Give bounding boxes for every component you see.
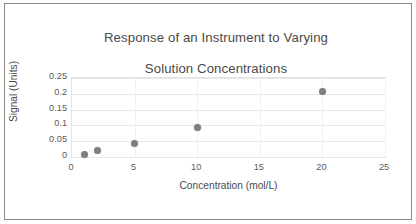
plot-area xyxy=(71,77,386,158)
x-axis-tick-label: 15 xyxy=(244,163,274,172)
y-axis-tick-label: 0.1 xyxy=(33,120,67,129)
y-axis-tick-label: 0.05 xyxy=(33,136,67,145)
gridline-vertical xyxy=(260,78,261,157)
y-axis-tick-label: 0 xyxy=(33,151,67,160)
gridline-vertical xyxy=(385,78,386,157)
data-point xyxy=(194,124,201,131)
gridline-horizontal xyxy=(72,157,385,158)
data-point xyxy=(131,140,138,147)
data-point xyxy=(81,151,88,158)
chart-title: Response of an Instrument to Varying Sol… xyxy=(40,14,392,76)
gridline-horizontal xyxy=(72,125,385,126)
y-axis-tick-label: 0.2 xyxy=(33,88,67,97)
x-axis-title: Concentration (mol/L) xyxy=(71,180,386,191)
y-axis-tick-label: 0.25 xyxy=(33,72,67,81)
y-axis-tick-labels: 00.050.10.150.20.25 xyxy=(33,77,67,158)
chart-title-line-1: Response of an Instrument to Varying xyxy=(104,30,328,45)
y-axis-title: Signal (Units) xyxy=(8,60,19,124)
x-axis-tick-label: 10 xyxy=(181,163,211,172)
gridline-horizontal xyxy=(72,94,385,95)
gridline-horizontal xyxy=(72,141,385,142)
x-axis-tick-label: 20 xyxy=(306,163,336,172)
x-axis-tick-label: 5 xyxy=(119,163,149,172)
x-axis-tick-label: 25 xyxy=(369,163,399,172)
y-axis-tick-label: 0.15 xyxy=(33,104,67,113)
gridline-horizontal xyxy=(72,78,385,79)
x-axis-tick-label: 0 xyxy=(56,163,86,172)
x-axis-tick-labels: 0510152025 xyxy=(71,163,386,175)
data-point xyxy=(319,88,326,95)
data-point xyxy=(94,147,101,154)
gridline-vertical xyxy=(197,78,198,157)
chart-image: Response of an Instrument to Varying Sol… xyxy=(0,0,416,224)
chart-title-line-2: Solution Concentrations xyxy=(145,61,287,76)
gridline-horizontal xyxy=(72,110,385,111)
